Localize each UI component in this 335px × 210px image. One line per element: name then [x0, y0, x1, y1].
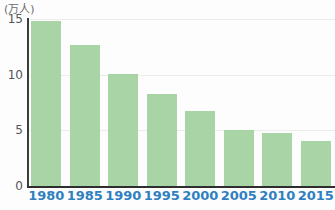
y-tick-label: 15 [0, 13, 23, 25]
bar [262, 133, 292, 186]
bars-layer [27, 0, 335, 186]
bar [185, 111, 215, 186]
x-tick-label: 1990 [104, 188, 143, 203]
x-tick-label: 2010 [258, 188, 297, 203]
bar [147, 94, 177, 186]
bar [224, 130, 254, 186]
x-tick-label: 1995 [143, 188, 182, 203]
x-tick-label: 1985 [66, 188, 105, 203]
bar [108, 74, 138, 186]
bar [31, 21, 61, 186]
x-tick-label: 2000 [181, 188, 220, 203]
x-axis-tick-labels: 19801985199019952000200520102015 [27, 188, 335, 206]
x-tick-label: 2005 [220, 188, 259, 203]
bar [301, 141, 331, 186]
y-tick-label: 0 [0, 180, 23, 192]
y-tick-label: 5 [0, 124, 23, 136]
x-tick-label: 1980 [27, 188, 66, 203]
y-tick-label: 10 [0, 69, 23, 81]
x-tick-label: 2015 [297, 188, 335, 203]
bar-chart: (万人) 051015 1980198519901995200020052010… [0, 0, 335, 210]
bar [70, 45, 100, 186]
